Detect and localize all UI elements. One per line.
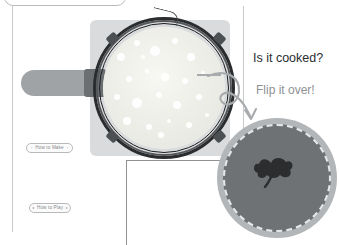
left-guide-rule <box>12 6 13 232</box>
pancake-burn-mark-icon <box>251 154 295 188</box>
pill-right-marker-icon: › <box>67 146 68 150</box>
how-to-play-label: How to Play <box>37 206 63 211</box>
top-rounded-bar <box>4 0 126 6</box>
flip-it-over-label: Flip it over! <box>256 84 315 96</box>
how-to-make-label: How to Make <box>35 146 63 151</box>
pan-handle <box>21 70 91 96</box>
pill-right-marker-icon: ▸ <box>66 206 68 210</box>
how-to-play-button[interactable]: ◂ How to Play ▸ <box>29 203 71 213</box>
pill-left-marker-icon: ◂ <box>32 206 34 210</box>
is-it-cooked-label: Is it cooked? <box>253 52 323 65</box>
cooked-pancake <box>217 118 337 238</box>
how-to-make-button[interactable]: ‹ How to Make › <box>26 143 73 153</box>
pill-left-marker-icon: ‹ <box>31 146 32 150</box>
illustration-canvas: ‹ How to Make › ◂ How to Play ▸ Is it co… <box>0 0 339 245</box>
